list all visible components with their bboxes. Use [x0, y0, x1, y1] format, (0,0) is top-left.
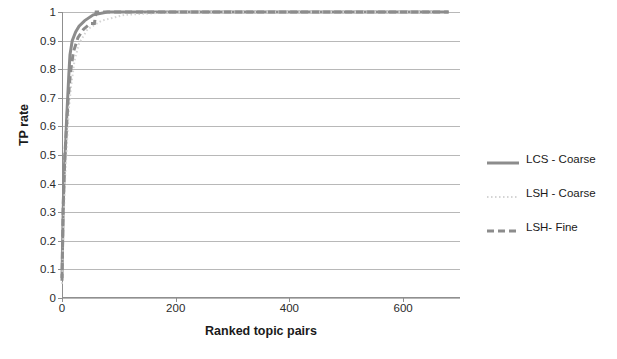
x-axis-tick-labels: 0200400600	[62, 302, 460, 320]
legend-item: LSH- Fine	[487, 210, 612, 244]
y-tick-label: 0.3	[40, 206, 56, 218]
x-axis-title: Ranked topic pairs	[62, 324, 460, 338]
y-tick-label: 0.1	[40, 263, 56, 275]
legend-label: LSH - Coarse	[526, 187, 596, 199]
chart-figure: TP rate 00.10.20.30.40.50.60.70.80.91 02…	[0, 0, 617, 359]
y-tick-label: 1	[50, 6, 56, 18]
series-line	[62, 12, 449, 281]
x-tick-label: 200	[166, 302, 185, 314]
y-tick-label: 0.8	[40, 63, 56, 75]
x-tick-label: 400	[280, 302, 299, 314]
chart-legend: LCS - CoarseLSH - CoarseLSH- Fine	[487, 142, 612, 244]
y-axis-title: TP rate	[17, 85, 31, 165]
y-axis-tick-labels: 00.10.20.30.40.50.60.70.80.91	[30, 12, 56, 298]
x-tick-label: 0	[59, 302, 65, 314]
series-line	[62, 12, 449, 278]
x-tick-label: 600	[394, 302, 413, 314]
legend-swatch	[487, 188, 519, 198]
y-tick-label: 0.5	[40, 149, 56, 161]
y-tick-label: 0.4	[40, 178, 56, 190]
y-tick-label: 0.6	[40, 120, 56, 132]
y-tick-label: 0	[50, 292, 56, 304]
legend-swatch	[487, 222, 519, 232]
y-tick-label: 0.2	[40, 235, 56, 247]
series-line	[62, 12, 437, 284]
legend-item: LSH - Coarse	[487, 176, 612, 210]
legend-label: LCS - Coarse	[526, 153, 596, 165]
plot-area	[62, 12, 460, 298]
y-tick	[58, 298, 62, 299]
series-lines	[62, 12, 460, 298]
legend-item: LCS - Coarse	[487, 142, 612, 176]
legend-swatch	[487, 154, 519, 164]
y-tick-label: 0.7	[40, 92, 56, 104]
gridline	[62, 298, 460, 299]
y-tick-label: 0.9	[40, 35, 56, 47]
legend-label: LSH- Fine	[526, 221, 578, 233]
